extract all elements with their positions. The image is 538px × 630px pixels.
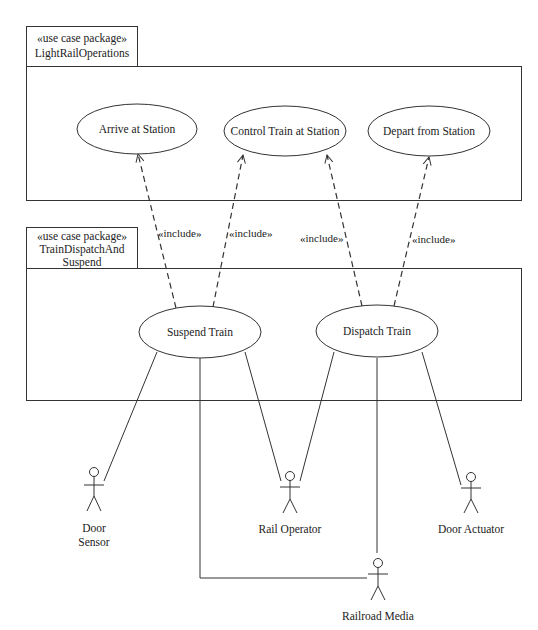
actor-door-actuator[interactable] [461, 473, 481, 514]
use-case-label: Suspend Train [167, 326, 233, 339]
actor-icon-leg [290, 499, 297, 513]
package-stereotype: «use case package» [37, 32, 127, 45]
actor-icon-leg [378, 586, 385, 600]
use-case-suspend-train[interactable]: Suspend Train [139, 306, 261, 358]
include-dispatch-to-depart[interactable] [394, 157, 429, 306]
include-dispatch-to-control[interactable] [327, 155, 362, 306]
association-dispatch-rail-operator[interactable] [300, 352, 334, 481]
actor-door-sensor[interactable] [84, 468, 104, 512]
include-label: «include» [229, 227, 272, 239]
actor-icon-leg [94, 496, 101, 511]
actor-icon-leg [371, 586, 378, 600]
association-suspend-railroad-media[interactable] [200, 358, 367, 578]
association-suspend-rail-operator[interactable] [245, 352, 281, 481]
use-case-diagram: «use case package» LightRailOperations «… [0, 0, 538, 630]
use-case-depart-from-station[interactable]: Depart from Station [368, 106, 490, 156]
actor-rail-operator[interactable] [280, 472, 300, 514]
actor-icon-head [467, 473, 476, 482]
actor-icon-leg [87, 496, 94, 511]
package-name-line2: Suspend [63, 256, 102, 269]
package-body [27, 269, 522, 401]
use-case-label: Arrive at Station [99, 123, 176, 135]
package-train-dispatch-and-suspend: «use case package» TrainDispatchAnd Susp… [27, 228, 522, 401]
use-case-label: Depart from Station [383, 125, 475, 138]
association-dispatch-door-actuator[interactable] [422, 352, 461, 485]
include-label: «include» [412, 233, 455, 245]
actor-icon-leg [464, 499, 471, 513]
use-case-control-train-at-station[interactable]: Control Train at Station [224, 106, 346, 156]
include-label: «include» [300, 232, 343, 244]
actor-icon-leg [283, 499, 290, 513]
actor-icon-head [90, 468, 99, 477]
use-case-dispatch-train[interactable]: Dispatch Train [316, 305, 438, 357]
actor-label: Door Actuator [438, 523, 504, 535]
package-name: LightRailOperations [35, 47, 130, 60]
package-stereotype: «use case package» [37, 230, 127, 243]
use-case-arrive-at-station[interactable]: Arrive at Station [77, 104, 197, 154]
use-case-label: Control Train at Station [231, 125, 340, 137]
actor-label: Railroad Media [342, 610, 414, 622]
package-name-line1: TrainDispatchAnd [39, 243, 124, 256]
actor-label: Rail Operator [259, 523, 322, 536]
actor-icon-head [286, 472, 295, 481]
associations [104, 352, 461, 578]
actor-icon-head [374, 559, 383, 568]
actor-railroad-media[interactable] [368, 559, 388, 601]
actor-icon-leg [471, 499, 478, 513]
include-label: «include» [158, 227, 201, 239]
use-case-label: Dispatch Train [343, 325, 411, 338]
actor-label-line2: Sensor [78, 536, 109, 548]
actor-label-line1: Door [82, 522, 106, 534]
association-suspend-door-sensor[interactable] [104, 352, 157, 481]
